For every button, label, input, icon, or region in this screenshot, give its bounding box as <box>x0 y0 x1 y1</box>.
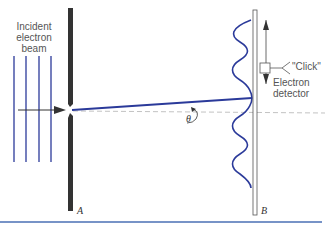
screen-b <box>253 10 257 215</box>
incident-arrow-icon <box>18 106 66 114</box>
interference-pattern <box>233 20 253 188</box>
detector-label: Electron detector <box>273 77 310 99</box>
screen-b-label: B <box>261 205 267 216</box>
electron-ray <box>72 98 252 110</box>
screen-a-label: A <box>77 205 83 216</box>
incident-beam-label: Incident electron beam <box>14 21 54 54</box>
center-axis <box>73 111 325 113</box>
incident-wavefronts <box>14 56 51 162</box>
theta-label: θ <box>186 113 191 124</box>
electron-detector-icon <box>260 20 290 84</box>
click-label: "Click" <box>292 61 321 72</box>
